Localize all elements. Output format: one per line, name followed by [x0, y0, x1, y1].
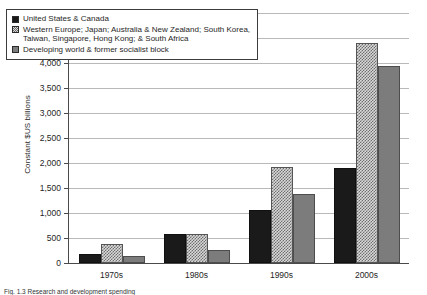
chart-legend: United States & Canada Western Europe; J… — [6, 9, 258, 60]
legend-item-2[interactable]: Developing world & former socialist bloc… — [12, 45, 250, 55]
y-axis-tick — [64, 188, 69, 189]
legend-item-0[interactable]: United States & Canada — [12, 14, 250, 24]
legend-label-line-1: Western Europe; Japan; Australia & New Z… — [23, 25, 250, 34]
bar-group: 2000s — [334, 13, 400, 263]
bar[interactable] — [249, 210, 271, 264]
legend-item-1[interactable]: Western Europe; Japan; Australia & New Z… — [12, 25, 250, 44]
x-axis-tick-label: 1970s — [100, 270, 123, 280]
y-axis-tick — [64, 138, 69, 139]
bar[interactable] — [334, 168, 356, 263]
legend-swatch-icon — [12, 16, 19, 23]
bar[interactable] — [79, 254, 101, 264]
bar[interactable] — [271, 167, 293, 264]
y-axis-tick-label: 3,000 — [40, 108, 61, 118]
y-axis-tick-label: 0 — [56, 258, 61, 268]
bar[interactable] — [164, 234, 186, 263]
bar[interactable] — [208, 250, 230, 263]
legend-label: Western Europe; Japan; Australia & New Z… — [23, 25, 250, 44]
y-axis-tick — [64, 238, 69, 239]
legend-label: United States & Canada — [23, 14, 109, 24]
bar[interactable] — [101, 244, 123, 263]
y-axis-tick — [64, 88, 69, 89]
y-axis-tick-label: 1,000 — [40, 208, 61, 218]
bar[interactable] — [378, 66, 400, 264]
y-axis-tick-label: 2,000 — [40, 158, 61, 168]
chart-figure: Constant $US billions 05001,0001,5002,00… — [0, 0, 427, 295]
y-axis-tick-label: 500 — [47, 233, 61, 243]
bar[interactable] — [123, 256, 145, 263]
y-axis-tick-label: 2,500 — [40, 133, 61, 143]
x-axis-tick-label: 1990s — [270, 270, 293, 280]
x-axis-tick-label: 2000s — [355, 270, 378, 280]
bar[interactable] — [293, 194, 315, 264]
y-axis-tick — [64, 263, 69, 264]
y-axis-tick — [64, 213, 69, 214]
legend-label-line-2: Taiwan, Singapore, Hong Kong; & South Af… — [23, 34, 250, 44]
y-axis-title: Constant $US billions — [23, 60, 32, 210]
bar[interactable] — [356, 43, 378, 263]
y-axis-tick — [64, 113, 69, 114]
legend-swatch-icon — [12, 26, 19, 33]
y-axis-tick-label: 3,500 — [40, 83, 61, 93]
x-axis-tick-label: 1980s — [185, 270, 208, 280]
legend-swatch-icon — [12, 46, 19, 53]
y-axis-tick-label: 1,500 — [40, 183, 61, 193]
y-axis-tick — [64, 63, 69, 64]
bar-group: 1990s — [249, 13, 315, 263]
y-axis-tick — [64, 163, 69, 164]
figure-caption: Fig. 1.3 Research and development spendi… — [4, 288, 135, 295]
bar[interactable] — [186, 234, 208, 263]
legend-label: Developing world & former socialist bloc… — [23, 45, 169, 55]
